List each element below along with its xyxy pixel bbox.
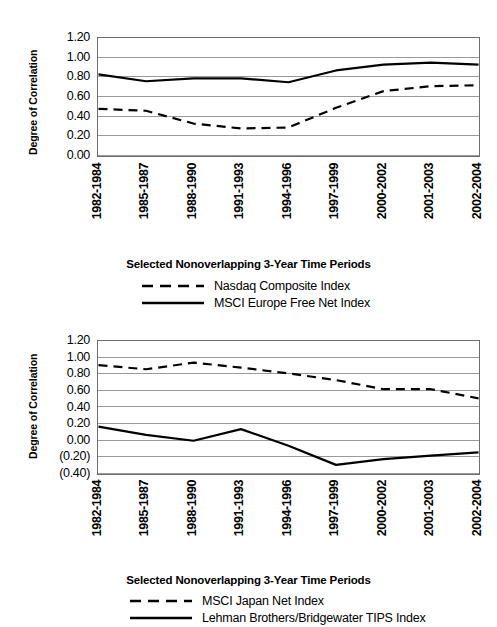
series-canvas xyxy=(98,38,479,156)
chart-top-x-tick-labels: 1982-19841985-19871988-19901991-19931994… xyxy=(97,163,480,255)
series-line xyxy=(99,363,479,399)
x-tick-label: 2000-2002 xyxy=(376,163,389,219)
chart-top-legend: Nasdaq Composite IndexMSCI Europe Free N… xyxy=(0,278,497,312)
y-tick-label: 1.20 xyxy=(67,31,90,44)
chart-bottom-legend: MSCI Japan Net IndexLehman Brothers/Brid… xyxy=(0,593,497,627)
x-tick-label: 1988-1990 xyxy=(186,163,199,219)
x-tick-label: 1997-1999 xyxy=(328,480,341,536)
legend-item[interactable]: MSCI Japan Net Index xyxy=(130,593,324,609)
chart-bottom: Degree of Correlation 1.201.000.800.600.… xyxy=(0,312,497,624)
x-tick-label: 1985-1987 xyxy=(138,480,151,536)
chart-top: Degree of Correlation 1.201.000.800.600.… xyxy=(0,0,497,312)
y-tick-label: 0.60 xyxy=(67,90,90,103)
series-line xyxy=(99,427,479,465)
legend-label: MSCI Japan Net Index xyxy=(202,594,324,608)
y-tick-label: 0.20 xyxy=(67,129,90,142)
y-tick-label: 0.80 xyxy=(67,367,90,380)
chart-top-y-tick-labels: 1.201.000.800.600.400.200.00 xyxy=(45,28,90,178)
y-tick-label: 0.00 xyxy=(67,149,90,162)
chart-bottom-x-tick-labels: 1982-19841985-19871988-19901991-19931994… xyxy=(97,480,480,572)
x-tick-label: 1982-1984 xyxy=(91,480,104,536)
y-tick-label: 0.40 xyxy=(67,401,90,414)
series-canvas xyxy=(98,341,479,474)
chart-top-y-axis-title: Degree of Correlation xyxy=(27,30,41,175)
chart-bottom-x-axis-title: Selected Nonoverlapping 3-Year Time Peri… xyxy=(0,574,497,586)
x-tick-label: 1994-1996 xyxy=(281,480,294,536)
series-line xyxy=(99,63,479,83)
legend-label: Lehman Brothers/Bridgewater TIPS Index xyxy=(202,611,426,625)
chart-bottom-y-tick-labels: 1.201.000.800.600.400.200.00(0.20)(0.40) xyxy=(36,332,90,487)
x-tick-label: 1997-1999 xyxy=(328,163,341,219)
chart-top-plot-area xyxy=(97,37,480,157)
y-tick-label: 0.80 xyxy=(67,70,90,83)
dashed-line-icon xyxy=(130,596,192,606)
x-tick-label: 2000-2002 xyxy=(376,480,389,536)
chart-bottom-plot-area xyxy=(97,340,480,475)
y-tick-label: 1.00 xyxy=(67,351,90,364)
series-line xyxy=(99,85,479,128)
dashed-line-icon xyxy=(142,281,204,291)
x-tick-label: 1991-1993 xyxy=(233,480,246,536)
x-tick-label: 2001-2003 xyxy=(423,480,436,536)
y-tick-label: 0.40 xyxy=(67,110,90,123)
y-tick-label: 0.00 xyxy=(67,434,90,447)
x-tick-label: 2002-2004 xyxy=(471,163,484,219)
x-tick-label: 1985-1987 xyxy=(138,163,151,219)
solid-line-icon xyxy=(142,298,204,308)
x-tick-label: 2002-2004 xyxy=(471,480,484,536)
legend-label: MSCI Europe Free Net Index xyxy=(214,296,370,310)
legend-item[interactable]: Lehman Brothers/Bridgewater TIPS Index xyxy=(130,610,426,626)
legend-label: Nasdaq Composite Index xyxy=(214,279,350,293)
x-tick-label: 1988-1990 xyxy=(186,480,199,536)
y-tick-label: (0.20) xyxy=(59,450,90,463)
x-tick-label: 1994-1996 xyxy=(281,163,294,219)
y-tick-label: 1.00 xyxy=(67,51,90,64)
y-tick-label: (0.40) xyxy=(59,467,90,480)
chart-top-x-axis-title: Selected Nonoverlapping 3-Year Time Peri… xyxy=(0,258,497,270)
x-tick-label: 1982-1984 xyxy=(91,163,104,219)
y-tick-label: 1.20 xyxy=(67,334,90,347)
y-tick-label: 0.60 xyxy=(67,384,90,397)
x-tick-label: 2001-2003 xyxy=(423,163,436,219)
legend-item[interactable]: Nasdaq Composite Index xyxy=(142,278,350,294)
x-tick-label: 1991-1993 xyxy=(233,163,246,219)
y-tick-label: 0.20 xyxy=(67,417,90,430)
legend-item[interactable]: MSCI Europe Free Net Index xyxy=(142,295,370,311)
solid-line-icon xyxy=(130,613,192,623)
